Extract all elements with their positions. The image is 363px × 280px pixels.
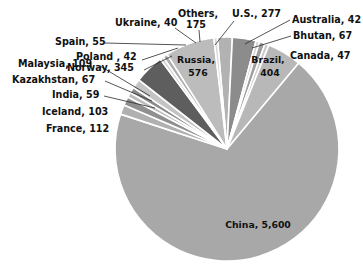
label-iceland: Iceland, 103 bbox=[42, 106, 108, 117]
label-china: China, 5,600 bbox=[225, 219, 291, 230]
label-russia: Russia, bbox=[177, 54, 215, 65]
label-russia-value: 576 bbox=[188, 67, 207, 78]
label-canada: Canada, 47 bbox=[290, 50, 351, 61]
label-kazakhstan: Kazakhstan, 67 bbox=[12, 74, 95, 85]
leader-line-ukraine bbox=[175, 28, 196, 43]
label-malaysia: Malaysia, 109 bbox=[18, 58, 93, 69]
label-us: U.S., 277 bbox=[232, 8, 281, 19]
label-spain: Spain, 55 bbox=[55, 36, 106, 47]
leader-line-australia bbox=[245, 20, 290, 44]
label-brazil-value: 404 bbox=[260, 67, 280, 78]
label-india: India, 59 bbox=[52, 89, 100, 100]
label-others-value: 175 bbox=[186, 19, 206, 30]
pie-chart-canvas: Others,175U.S., 277Australia, 42Bhutan, … bbox=[0, 0, 363, 280]
leader-line-spain bbox=[105, 43, 186, 45]
label-brazil: Brazil, bbox=[251, 54, 284, 65]
pie-chart: Others,175U.S., 277Australia, 42Bhutan, … bbox=[0, 0, 363, 280]
label-australia: Australia, 42 bbox=[292, 14, 361, 25]
label-bhutan: Bhutan, 67 bbox=[293, 30, 352, 41]
label-ukraine: Ukraine, 40 bbox=[115, 17, 178, 28]
label-france: France, 112 bbox=[46, 123, 109, 134]
label-others: Others, bbox=[178, 8, 218, 19]
